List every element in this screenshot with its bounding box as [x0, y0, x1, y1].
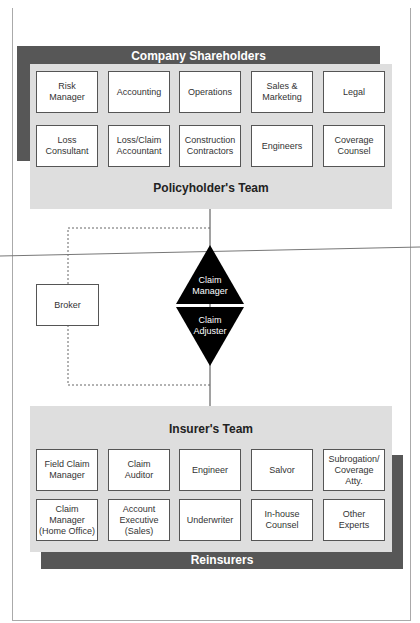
insurer-role-box-label: Claim Auditor	[125, 459, 154, 481]
insurer-role-box: In-house Counsel	[251, 499, 313, 541]
insurer-role-box: Claim Auditor	[108, 449, 170, 491]
insurer-role-box: Subrogation/ Coverage Atty.	[323, 449, 385, 491]
insurer-role-box: Underwriter	[179, 499, 241, 541]
insurer-role-box: Engineer	[179, 449, 241, 491]
insurer-role-box: Other Experts	[323, 499, 385, 541]
insurer-role-box-label: Field Claim Manager	[44, 459, 89, 481]
broker-box: Broker	[36, 284, 99, 326]
insurer-role-box-label: Engineer	[192, 465, 228, 476]
insurer-role-box: Claim Manager (Home Office)	[36, 499, 98, 541]
insurer-role-box-label: Account Executive (Sales)	[111, 504, 167, 537]
insurer-role-box-label: Subrogation/ Coverage Atty.	[326, 454, 382, 487]
insurer-role-box-label: Underwriter	[187, 515, 234, 526]
claim-manager-label: Claim Manager	[180, 275, 240, 297]
insurer-role-box: Account Executive (Sales)	[108, 499, 170, 541]
insurer-role-box: Field Claim Manager	[36, 449, 98, 491]
claim-adjuster-label: Claim Adjuster	[180, 315, 240, 337]
insurer-role-box: Salvor	[251, 449, 313, 491]
insurer-role-box-label: In-house Counsel	[264, 509, 299, 531]
reinsurers-label: Reinsurers	[41, 553, 403, 567]
insurer-role-box-label: Claim Manager (Home Office)	[39, 504, 95, 537]
insurer-team-title: Insurer's Team	[30, 422, 392, 436]
insurer-role-box-label: Other Experts	[339, 509, 370, 531]
insurer-role-box-label: Salvor	[269, 465, 295, 476]
